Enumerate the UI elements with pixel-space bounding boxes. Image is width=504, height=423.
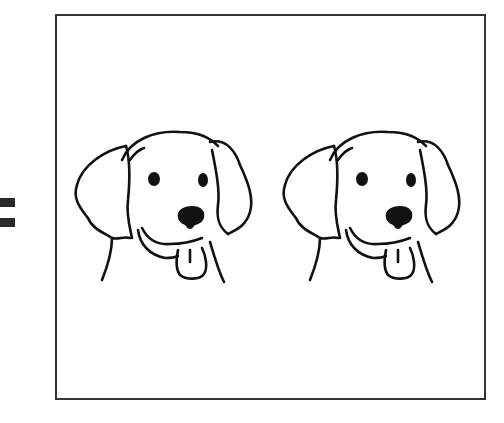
- equals-bar-top: [0, 198, 15, 207]
- dog-head-icon: Line drawing of a floppy-eared dog head …: [60, 110, 260, 300]
- dog-head-icon: Line drawing of a floppy-eared dog head …: [268, 110, 468, 300]
- equals-bar-bottom: [0, 218, 15, 227]
